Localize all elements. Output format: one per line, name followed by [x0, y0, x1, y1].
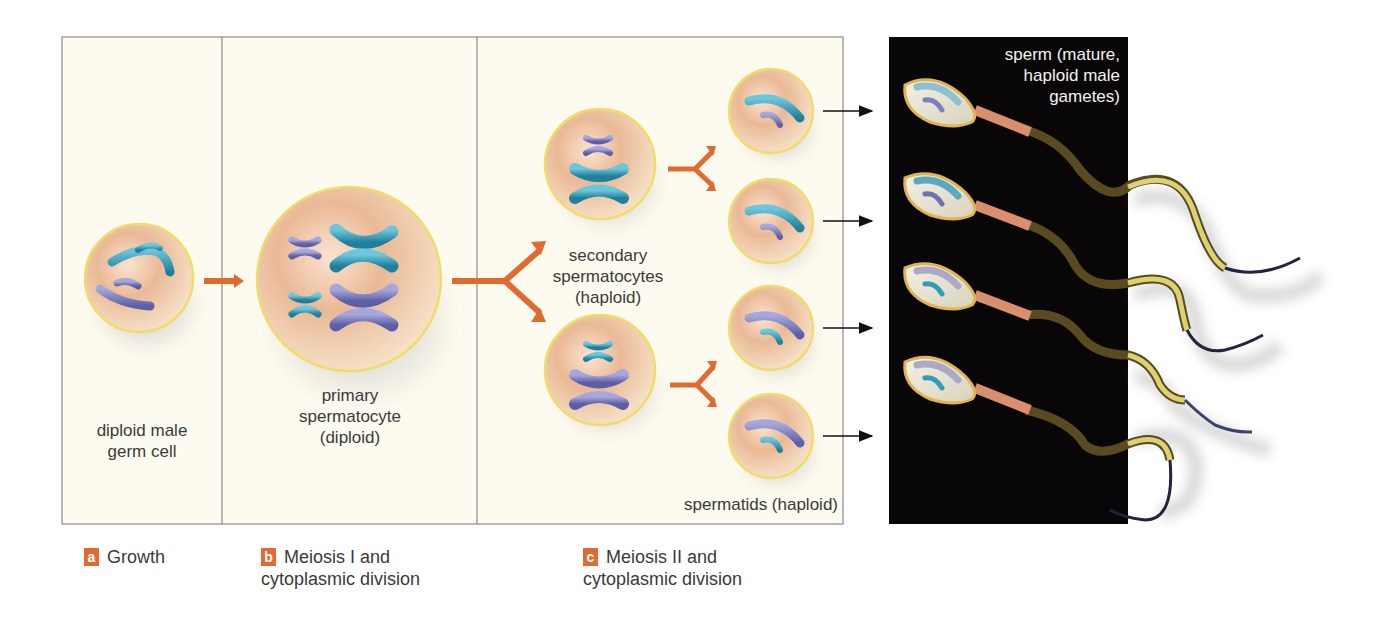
primary-label-line1: primary — [270, 385, 430, 406]
primary-label-line2: spermatocyte — [270, 406, 430, 427]
badge-c: c — [583, 548, 598, 566]
secondary-label-line1: secondary — [538, 245, 678, 266]
spermatogenesis-figure: diploid male germ cell primary spermatoc… — [0, 0, 1378, 629]
germ-cell-label-line2: germ cell — [72, 441, 212, 462]
primary-label-line3: (diploid) — [270, 427, 430, 448]
caption-c-line2: cytoplasmic division — [583, 568, 742, 590]
caption-a: aGrowth — [84, 546, 165, 568]
secondary-label-line2: spermatocytes — [538, 266, 678, 287]
primary-spermatocyte-label: primary spermatocyte (diploid) — [270, 385, 430, 448]
sperm-label-line3: gametes) — [950, 86, 1120, 107]
spermatids-label: spermatids (haploid) — [660, 494, 838, 515]
sperm-label-line1: sperm (mature, — [950, 44, 1120, 65]
figure-artwork — [0, 0, 1378, 629]
germ-cell-label-line1: diploid male — [72, 420, 212, 441]
caption-b-line2: cytoplasmic division — [261, 568, 420, 590]
sperm-label: sperm (mature, haploid male gametes) — [950, 44, 1120, 107]
sperm-label-line2: haploid male — [950, 65, 1120, 86]
caption-b: bMeiosis I and cytoplasmic division — [261, 546, 420, 590]
caption-b-line1: Meiosis I and — [284, 547, 390, 567]
caption-c: cMeiosis II and cytoplasmic division — [583, 546, 742, 590]
badge-b: b — [261, 548, 276, 566]
secondary-label-line3: (haploid) — [538, 287, 678, 308]
badge-a: a — [84, 548, 99, 566]
secondary-spermatocytes-label: secondary spermatocytes (haploid) — [538, 245, 678, 308]
caption-c-line1: Meiosis II and — [606, 547, 717, 567]
germ-cell-label: diploid male germ cell — [72, 420, 212, 462]
caption-a-title: Growth — [107, 547, 165, 567]
